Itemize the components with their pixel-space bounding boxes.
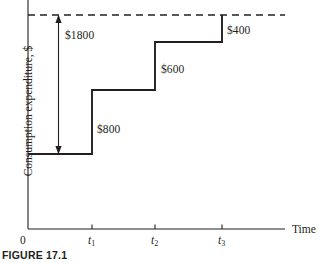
step-chart-plot xyxy=(0,0,327,264)
tick-label-t3: t3 xyxy=(218,234,225,248)
tick-label-t3-sub: 3 xyxy=(221,239,225,248)
tick-label-t1: t1 xyxy=(88,234,95,248)
y-axis-label: Consumption expenditure, $ xyxy=(22,11,34,211)
tick-label-t1-sub: 1 xyxy=(91,239,95,248)
origin-label: 0 xyxy=(20,234,26,246)
step-function-line xyxy=(28,15,222,154)
tick-label-t2-sub: 2 xyxy=(154,239,158,248)
annotation-total-increase: $1800 xyxy=(65,29,94,41)
annotation-step3: $400 xyxy=(227,24,250,36)
tick-label-t2: t2 xyxy=(151,234,158,248)
annotation-step1: $800 xyxy=(97,123,120,135)
figure-container: Consumption expenditure, $ Time 0 t1 t2 … xyxy=(0,0,327,264)
annotation-step2: $600 xyxy=(161,63,184,75)
figure-caption: FIGURE 17.1 xyxy=(2,249,67,261)
x-axis-label: Time xyxy=(292,223,316,235)
total-increase-arrow xyxy=(55,15,61,155)
